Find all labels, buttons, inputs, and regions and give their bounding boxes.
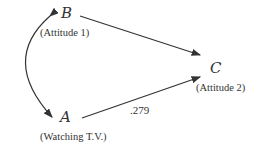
edge-b-to-c: [80, 16, 200, 55]
node-c-label: (Attitude 2): [196, 82, 245, 93]
node-a-symbol: A: [60, 108, 71, 126]
path-coefficient-a-c: .279: [130, 104, 149, 116]
node-b-label: (Attitude 1): [40, 27, 89, 38]
node-b-symbol: B: [61, 4, 72, 22]
node-a-label: (Watching T.V.): [40, 131, 107, 142]
path-diagram: B (Attitude 1) A (Watching T.V.) C (Atti…: [0, 0, 265, 153]
node-c-symbol: C: [210, 59, 221, 77]
